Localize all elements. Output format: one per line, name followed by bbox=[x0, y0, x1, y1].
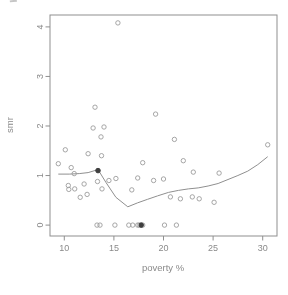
data-point-circle bbox=[56, 162, 60, 166]
data-point-circle bbox=[266, 143, 270, 147]
x-tick-label: 10 bbox=[59, 243, 69, 253]
data-point-circle bbox=[172, 137, 176, 141]
data-point-circle bbox=[217, 171, 221, 175]
data-point-circle bbox=[99, 135, 103, 139]
data-point-circle bbox=[212, 200, 216, 204]
data-point-circle bbox=[197, 197, 201, 201]
data-point-circle bbox=[63, 148, 67, 152]
lowess-line bbox=[58, 157, 267, 207]
data-point-circle bbox=[178, 197, 182, 201]
data-point-circle bbox=[95, 179, 99, 183]
x-axis-label: poverty % bbox=[142, 262, 185, 273]
data-point-circle bbox=[82, 182, 86, 186]
y-tick-label: 1 bbox=[35, 173, 45, 178]
data-point-circle bbox=[162, 223, 166, 227]
y-tick-label: 0 bbox=[35, 223, 45, 228]
scatter-plot-figure: 1015202530 01234 poverty % smr bbox=[0, 0, 288, 295]
y-axis: 01234 bbox=[35, 24, 50, 227]
data-point-circle bbox=[190, 195, 194, 199]
data-point-circle bbox=[153, 112, 157, 116]
data-point-circle bbox=[102, 125, 106, 129]
y-tick-label: 2 bbox=[35, 123, 45, 128]
data-point-circle bbox=[151, 178, 155, 182]
data-point-circle bbox=[116, 21, 120, 25]
data-point-circle bbox=[130, 188, 134, 192]
x-tick-label: 15 bbox=[109, 243, 119, 253]
data-point-circle bbox=[113, 223, 117, 227]
x-tick-label: 30 bbox=[258, 243, 268, 253]
solid-data-point bbox=[139, 223, 144, 228]
data-point-circle bbox=[99, 154, 103, 158]
y-tick-label: 4 bbox=[35, 24, 45, 29]
x-axis: 1015202530 bbox=[59, 236, 267, 253]
data-point-circle bbox=[136, 176, 140, 180]
data-point-circle bbox=[114, 176, 118, 180]
data-point-circle bbox=[168, 195, 172, 199]
solid-data-point bbox=[96, 168, 101, 173]
data-point-circle bbox=[161, 177, 165, 181]
data-point-circle bbox=[78, 195, 82, 199]
data-point-circle bbox=[100, 187, 104, 191]
data-point-circle bbox=[69, 165, 73, 169]
data-point-circle bbox=[174, 223, 178, 227]
x-tick-label: 25 bbox=[208, 243, 218, 253]
data-point-circle bbox=[86, 152, 90, 156]
data-point-circle bbox=[73, 187, 77, 191]
data-point-circle bbox=[93, 105, 97, 109]
data-point-circle bbox=[98, 223, 102, 227]
y-tick-label: 3 bbox=[35, 74, 45, 79]
data-point-circle bbox=[91, 126, 95, 130]
data-point-circle bbox=[181, 159, 185, 163]
scatter-points bbox=[56, 21, 270, 228]
data-point-circle bbox=[141, 161, 145, 165]
y-axis-label: smr bbox=[4, 117, 15, 133]
data-point-circle bbox=[85, 192, 89, 196]
plot-border bbox=[50, 15, 277, 236]
smr-vs-poverty-chart: 1015202530 01234 poverty % smr bbox=[0, 0, 288, 295]
data-point-circle bbox=[191, 170, 195, 174]
x-tick-label: 20 bbox=[158, 243, 168, 253]
data-point-circle bbox=[107, 178, 111, 182]
